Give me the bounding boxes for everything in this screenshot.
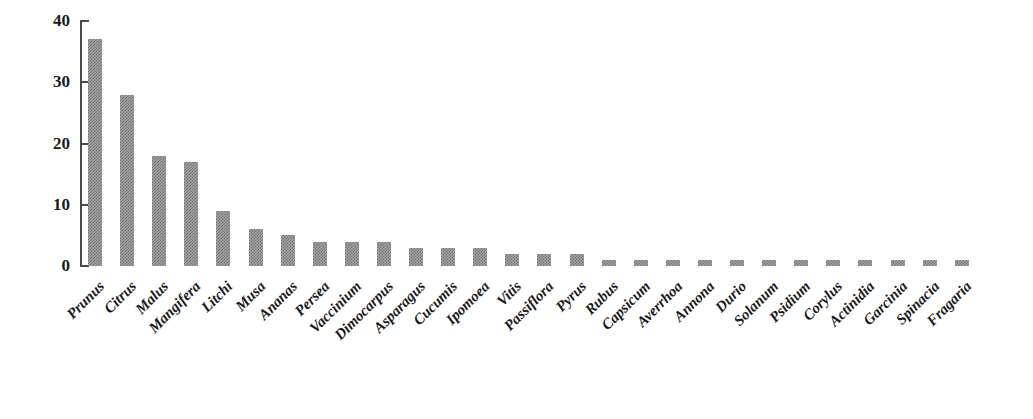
- bar-cucumis[interactable]: [441, 248, 455, 266]
- bars-layer: [0, 0, 1033, 419]
- bar-psidium[interactable]: [794, 260, 808, 266]
- plot-area: 403020100 PrunusCitrusMalusMangiferaLitc…: [0, 0, 1033, 419]
- bar-vitis[interactable]: [505, 254, 519, 266]
- bar-averrhoa[interactable]: [666, 260, 680, 266]
- bar-fragaria[interactable]: [955, 260, 969, 266]
- bar-persea[interactable]: [313, 242, 327, 267]
- bar-ipomoea[interactable]: [473, 248, 487, 266]
- bar-rubus[interactable]: [602, 260, 616, 266]
- bar-garcinia[interactable]: [891, 260, 905, 266]
- bar-malus[interactable]: [152, 156, 166, 266]
- bar-prunus[interactable]: [88, 39, 102, 266]
- bar-dimocarpus[interactable]: [377, 242, 391, 267]
- bar-mangifera[interactable]: [184, 162, 198, 266]
- bar-ananas[interactable]: [281, 235, 295, 266]
- bar-annona[interactable]: [698, 260, 712, 266]
- bar-actinidia[interactable]: [858, 260, 872, 266]
- bar-solanum[interactable]: [762, 260, 776, 266]
- bar-corylus[interactable]: [826, 260, 840, 266]
- bar-spinacia[interactable]: [923, 260, 937, 266]
- bar-durio[interactable]: [730, 260, 744, 266]
- bar-citrus[interactable]: [120, 95, 134, 267]
- bar-musa[interactable]: [249, 229, 263, 266]
- bar-passiflora[interactable]: [537, 254, 551, 266]
- bar-litchi[interactable]: [216, 211, 230, 266]
- bar-capsicum[interactable]: [634, 260, 648, 266]
- bar-chart-figure: 403020100 PrunusCitrusMalusMangiferaLitc…: [0, 0, 1033, 419]
- bar-vaccinium[interactable]: [345, 242, 359, 267]
- bar-asparagus[interactable]: [409, 248, 423, 266]
- bar-pyrus[interactable]: [570, 254, 584, 266]
